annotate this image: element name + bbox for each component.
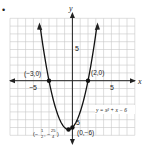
- y-axis-label: y: [68, 4, 73, 13]
- x-tick-5: 5: [110, 84, 114, 91]
- svg-text:): ): [57, 131, 59, 137]
- svg-text:(−: (−: [33, 131, 38, 137]
- point-marker: [70, 125, 74, 129]
- y-tick-neg5: 5: [76, 119, 80, 126]
- vertex-label: (− 1 2 , − 25 4 ): [33, 128, 59, 139]
- point-marker: [66, 127, 70, 131]
- svg-text:25: 25: [51, 128, 56, 133]
- x-axis-label: x: [137, 77, 142, 86]
- point-label-neg3-0: (−3,0): [24, 70, 41, 78]
- graph: • y x −5 5 5 5 (−3,0) (2,0) (0,−6) (− 1 …: [0, 0, 148, 148]
- y-tick-5: 5: [75, 45, 79, 52]
- point-label-2-0: (2,0): [91, 69, 104, 77]
- marked-points: [47, 79, 90, 132]
- point-marker: [47, 79, 51, 83]
- point-marker: [86, 79, 90, 83]
- point-label-0-neg6: (0,−6): [77, 129, 94, 137]
- equation-label: y = x² + x − 6: [95, 107, 127, 113]
- svg-text:, −: , −: [44, 131, 50, 137]
- svg-text:4: 4: [52, 134, 55, 139]
- axes: [9, 12, 136, 145]
- parabola-curve: [40, 26, 97, 130]
- problem-marker: •: [2, 5, 5, 15]
- x-tick-neg5: −5: [29, 84, 37, 91]
